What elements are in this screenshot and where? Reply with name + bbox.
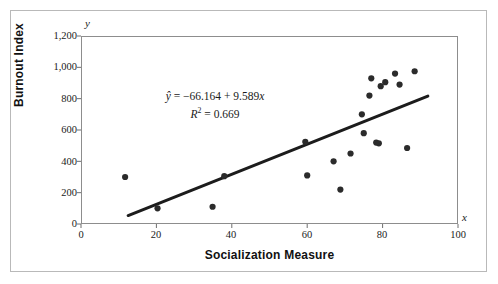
y-axis-letter: y [85,17,90,29]
x-tick-label-40: 40 [216,229,246,240]
y-tick-label-800: 800 [39,93,77,104]
r-squared-value: = 0.669 [201,108,239,120]
equation-body: = −66.164 + 9.589 [171,90,259,102]
plot-area [81,36,458,224]
x-axis-letter: x [462,211,467,223]
y-tick-label-1000: 1,000 [39,61,77,72]
x-tick-label-20: 20 [141,229,171,240]
x-tick-label-60: 60 [292,229,322,240]
r-squared-line: R2 = 0.669 [130,105,300,123]
y-axis-title: Burnout Index [12,5,26,125]
y-tick-label-0: 0 [39,218,77,229]
equation-line: ŷ = −66.164 + 9.589x [130,88,300,105]
x-axis-title: Socialization Measure [81,248,458,262]
regression-equation-annotation: ŷ = −66.164 + 9.589x R2 = 0.669 [130,88,300,122]
y-tick-label-400: 400 [39,156,77,167]
x-tick-label-80: 80 [367,229,397,240]
y-tick-label-200: 200 [39,187,77,198]
y-tick-label-600: 600 [39,124,77,135]
x-tick-label-100: 100 [443,229,473,240]
y-tick-label-1200: 1,200 [39,30,77,41]
figure-container: 1,200 1,000 800 600 400 200 0 0 20 40 60… [0,0,498,284]
equation-xvar: x [259,90,264,102]
r-squared-symbol: R [190,108,197,120]
x-tick-label-0: 0 [66,229,96,240]
